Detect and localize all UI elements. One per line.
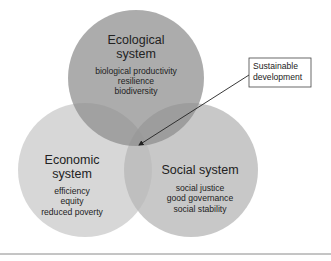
ecological-title-line2: system <box>116 47 156 61</box>
economic-title-line2: system <box>52 167 92 181</box>
social-item: good governance <box>167 193 234 203</box>
economic-item: efficiency <box>54 186 90 196</box>
callout-line1: Sustainable <box>253 61 298 71</box>
social-item: social stability <box>173 204 227 214</box>
social-item: social justice <box>176 183 225 193</box>
sustainable-development-venn-diagram: Ecological system biological productivit… <box>0 0 331 261</box>
ecological-item: biological productivity <box>95 66 177 76</box>
social-title: Social system <box>161 163 238 177</box>
ecological-item: resilience <box>118 76 155 86</box>
sustainable-development-callout: Sustainable development <box>249 58 311 87</box>
economic-title-line1: Economic <box>45 153 100 167</box>
ecological-title-line1: Ecological <box>108 33 165 47</box>
economic-item: reduced poverty <box>41 207 103 217</box>
economic-item: equity <box>61 196 85 206</box>
callout-line2: development <box>253 72 303 82</box>
ecological-item: biodiversity <box>115 86 159 96</box>
